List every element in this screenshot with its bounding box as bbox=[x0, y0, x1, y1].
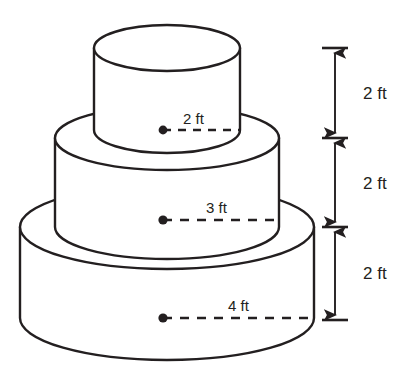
radius-label-middle: 3 ft bbox=[206, 199, 228, 216]
center-dot-top bbox=[159, 126, 168, 135]
height-label-top: 2 ft bbox=[363, 84, 387, 103]
cake-diagram: 2 ft 3 ft 4 ft 2 ft bbox=[0, 0, 417, 385]
top-tier bbox=[94, 25, 240, 153]
center-dot-bottom bbox=[158, 313, 167, 322]
center-dot-middle bbox=[158, 215, 167, 224]
height-label-middle: 2 ft bbox=[363, 174, 387, 193]
top-tier-top-face bbox=[94, 25, 240, 71]
radius-label-bottom: 4 ft bbox=[228, 297, 250, 314]
height-label-bottom: 2 ft bbox=[363, 264, 387, 283]
radius-label-top: 2 ft bbox=[183, 110, 205, 127]
